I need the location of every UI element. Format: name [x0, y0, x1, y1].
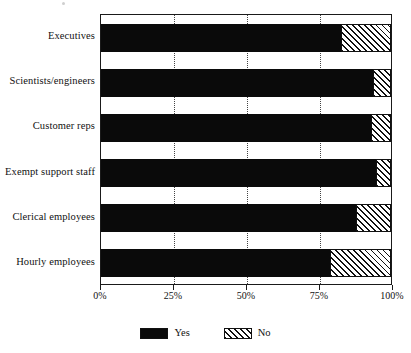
- bar-row: [101, 69, 391, 97]
- category-label: Scientists/engineers: [0, 76, 95, 87]
- bar-segment-yes: [101, 204, 358, 232]
- x-tick-label: 50%: [216, 291, 276, 301]
- category-label: Exempt support staff: [0, 167, 95, 178]
- hatched-swatch: [224, 328, 252, 339]
- bar-row: [101, 249, 391, 277]
- bar-row: [101, 204, 391, 232]
- category-label: Clerical employees: [0, 212, 95, 223]
- bar-segment-yes: [101, 114, 373, 142]
- bar-segment-no: [371, 114, 391, 142]
- bar-segment-no: [373, 69, 391, 97]
- bar-segment-yes: [101, 69, 375, 97]
- bar-segment-no: [356, 204, 391, 232]
- gridline-50: [247, 15, 248, 284]
- gridline-25: [174, 15, 175, 284]
- category-label: Executives: [0, 31, 95, 42]
- legend-item-yes: Yes: [140, 328, 189, 339]
- x-tick-label: 25%: [143, 291, 203, 301]
- bar-row: [101, 159, 391, 187]
- category-label: Hourly employees: [0, 257, 95, 268]
- bar-segment-yes: [101, 249, 332, 277]
- plot-area: [100, 14, 392, 285]
- bar-segment-no: [341, 24, 391, 52]
- x-tick-label: 100%: [362, 291, 411, 301]
- bar-segment-no: [330, 249, 391, 277]
- x-tick-label: 0%: [70, 291, 130, 301]
- scan-artifact-speck: [62, 2, 65, 5]
- bar-segment-yes: [101, 24, 343, 52]
- solid-black-swatch: [140, 328, 168, 339]
- legend-label-no: No: [258, 328, 271, 339]
- category-label: Customer reps: [0, 121, 95, 132]
- x-tick-label: 75%: [289, 291, 349, 301]
- gridline-75: [320, 15, 321, 284]
- stacked-bar-chart: ExecutivesScientists/engineersCustomer r…: [0, 0, 411, 353]
- bar-segment-no: [376, 159, 391, 187]
- bar-segment-yes: [101, 159, 378, 187]
- chart-legend: Yes No: [0, 328, 411, 339]
- legend-item-no: No: [224, 328, 271, 339]
- bar-row: [101, 24, 391, 52]
- bar-row: [101, 114, 391, 142]
- legend-label-yes: Yes: [174, 328, 189, 339]
